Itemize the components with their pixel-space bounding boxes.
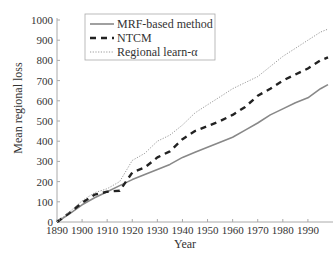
- y-tick-label: 700: [37, 75, 54, 87]
- y-axis-label: Mean regional loss: [11, 62, 25, 154]
- series-line-1: [57, 57, 328, 222]
- x-tick-label: 1900: [71, 224, 94, 236]
- y-tick-label: 800: [37, 54, 54, 66]
- legend-label: NTCM: [117, 31, 152, 45]
- y-tick-label: 400: [37, 135, 54, 147]
- y-tick-label: 500: [37, 115, 54, 127]
- y-tick-label: 900: [37, 34, 54, 46]
- y-tick-label: 600: [37, 95, 54, 107]
- y-tick-label: 300: [37, 155, 54, 167]
- x-tick-label: 1950: [197, 224, 220, 236]
- x-tick-label: 1960: [222, 224, 245, 236]
- x-tick-label: 1990: [297, 224, 320, 236]
- legend: MRF-based methodNTCMRegional learn-α: [85, 14, 215, 60]
- y-tick-label: 0: [48, 216, 54, 228]
- x-axis-label: Year: [174, 237, 196, 251]
- x-tick-label: 1920: [121, 224, 144, 236]
- x-tick-label: 1910: [96, 224, 119, 236]
- legend-label: MRF-based method: [117, 17, 213, 31]
- y-tick-label: 100: [37, 196, 54, 208]
- y-tick-label: 200: [37, 176, 54, 188]
- legend-label: Regional learn-α: [117, 45, 198, 59]
- x-tick-label: 1980: [272, 224, 295, 236]
- line-chart: 1890190019101920193019401950196019701980…: [0, 0, 334, 263]
- x-tick-label: 1970: [247, 224, 270, 236]
- series-line-0: [57, 85, 328, 222]
- y-tick-label: 1000: [31, 14, 54, 26]
- x-tick-label: 1930: [146, 224, 169, 236]
- x-tick-label: 1940: [171, 224, 194, 236]
